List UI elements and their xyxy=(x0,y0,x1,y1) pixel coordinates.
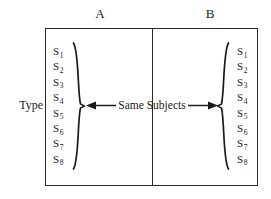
right-curly-brace-left-group xyxy=(71,42,87,170)
subject-item-left-5: S5 xyxy=(53,106,63,121)
subject-symbol: S xyxy=(53,153,59,165)
subject-index: 1 xyxy=(60,51,64,60)
subject-symbol: S xyxy=(237,91,243,103)
subject-index: 3 xyxy=(60,81,64,90)
column-header-a: A xyxy=(80,6,120,21)
subject-symbol: S xyxy=(53,122,59,134)
subject-item-right-6: S6 xyxy=(237,121,247,136)
subject-index: 6 xyxy=(244,128,248,137)
subject-item-right-8: S8 xyxy=(237,152,247,167)
subject-item-left-4: S4 xyxy=(53,90,63,105)
subject-symbol: S xyxy=(53,45,59,57)
subject-item-right-5: S5 xyxy=(237,106,247,121)
column-header-b: B xyxy=(190,6,230,21)
subject-index: 8 xyxy=(244,158,248,167)
arrow-right-icon xyxy=(188,100,218,111)
subject-index: 1 xyxy=(244,51,248,60)
same-subjects-label: Same Subjects xyxy=(116,99,187,112)
subject-index: 2 xyxy=(244,66,248,75)
subject-index: 7 xyxy=(60,143,64,152)
subject-symbol: S xyxy=(237,107,243,119)
subject-symbol: S xyxy=(237,122,243,134)
subject-item-left-7: S7 xyxy=(53,136,63,151)
subject-symbol: S xyxy=(53,137,59,149)
subject-symbol: S xyxy=(237,137,243,149)
subject-list-b: S1S2S3S4S5S6S7S8 xyxy=(237,44,259,167)
subject-symbol: S xyxy=(237,76,243,88)
subject-item-left-8: S8 xyxy=(53,152,63,167)
subject-index: 4 xyxy=(60,97,64,106)
subject-index: 4 xyxy=(244,97,248,106)
subject-index: 3 xyxy=(244,81,248,90)
subject-index: 5 xyxy=(60,112,64,121)
subject-symbol: S xyxy=(53,60,59,72)
subject-symbol: S xyxy=(53,76,59,88)
subject-index: 6 xyxy=(60,128,64,137)
subject-item-left-2: S2 xyxy=(53,59,63,74)
row-label-type: Type xyxy=(2,98,43,112)
arrow-left-icon xyxy=(86,100,116,111)
subject-index: 8 xyxy=(60,158,64,167)
subject-item-right-2: S2 xyxy=(237,59,247,74)
subject-symbol: S xyxy=(237,153,243,165)
subject-symbol: S xyxy=(53,91,59,103)
subject-index: 2 xyxy=(60,66,64,75)
subject-index: 5 xyxy=(244,112,248,121)
paired-subjects-diagram: A B Type S1S2S3S4S5S6S7S8 S1S2S3S4S5S6S7… xyxy=(0,0,271,199)
subject-item-left-3: S3 xyxy=(53,75,63,90)
subject-item-right-1: S1 xyxy=(237,44,247,59)
subject-item-left-1: S1 xyxy=(53,44,63,59)
subject-index: 7 xyxy=(244,143,248,152)
subject-symbol: S xyxy=(237,60,243,72)
subject-symbol: S xyxy=(237,45,243,57)
subject-item-right-4: S4 xyxy=(237,90,247,105)
subject-item-left-6: S6 xyxy=(53,121,63,136)
subject-item-right-7: S7 xyxy=(237,136,247,151)
subject-symbol: S xyxy=(53,107,59,119)
subject-item-right-3: S3 xyxy=(237,75,247,90)
same-subjects-connector: Same Subjects xyxy=(86,96,218,114)
